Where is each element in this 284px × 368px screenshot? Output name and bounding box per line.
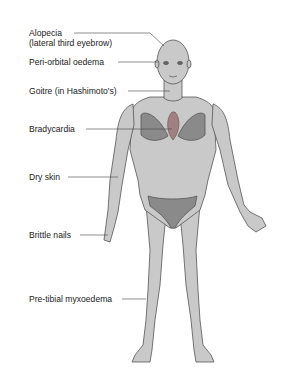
left-eye	[164, 61, 169, 64]
label-dry-skin: Dry skin	[29, 172, 60, 182]
label-brittle-nails: Brittle nails	[29, 230, 71, 240]
label-bradycardia: Bradycardia	[29, 124, 75, 134]
label-pretibial-myxoedema: Pre-tibial myxoedema	[29, 294, 112, 304]
left-leg	[132, 205, 166, 362]
head	[157, 40, 189, 84]
right-eye	[178, 61, 183, 64]
label-alopecia-line2: (lateral third eyebrow)	[29, 38, 112, 48]
right-arm	[212, 104, 266, 232]
hypothyroidism-diagram: Alopecia (lateral third eyebrow) Peri-or…	[0, 0, 284, 368]
label-alopecia: Alopecia (lateral third eyebrow)	[29, 28, 112, 48]
label-goitre: Goitre (in Hashimoto's)	[29, 86, 117, 96]
label-periorbital-oedema: Peri-orbital oedema	[29, 57, 104, 67]
left-arm	[104, 104, 134, 242]
right-leg	[180, 205, 214, 362]
body-figure	[0, 0, 284, 368]
label-alopecia-line1: Alopecia	[29, 28, 112, 38]
